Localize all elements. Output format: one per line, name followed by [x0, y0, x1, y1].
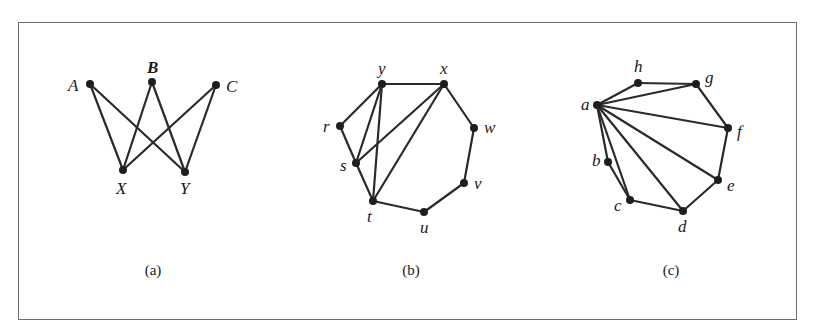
vertex-B — [148, 78, 156, 86]
edge-w-v — [464, 128, 474, 183]
vertex-label-w: w — [484, 118, 496, 137]
vertex-A — [86, 80, 94, 88]
edge-x-w — [444, 84, 474, 128]
edge-u-t — [373, 201, 424, 212]
panel-b-edges — [340, 84, 474, 212]
vertex-f — [724, 124, 732, 132]
vertex-label-g: g — [705, 68, 714, 87]
vertex-label-B: B — [146, 58, 158, 77]
edge-v-u — [424, 183, 464, 212]
vertex-s — [352, 159, 360, 167]
vertex-c — [626, 196, 634, 204]
vertex-y — [378, 80, 386, 88]
edge-a-g — [597, 84, 696, 105]
panel-c-edges — [597, 83, 728, 211]
edge-A-X — [90, 84, 123, 170]
vertex-label-X: X — [115, 179, 127, 198]
panel-a-edges — [90, 82, 216, 172]
panel-a-caption: (a) — [145, 262, 162, 279]
vertex-label-x: x — [439, 59, 448, 78]
edge-t-s — [356, 163, 373, 201]
vertex-w — [470, 124, 478, 132]
vertex-label-u: u — [420, 218, 429, 237]
panel-a-vertices: ABCXY — [67, 58, 238, 198]
panel-c-caption: (c) — [663, 262, 680, 279]
vertex-label-s: s — [340, 156, 347, 175]
vertex-label-e: e — [727, 176, 735, 195]
vertex-label-A: A — [67, 76, 79, 95]
edge-h-g — [638, 83, 696, 84]
edge-a-d — [597, 105, 683, 211]
panel-b-octagon-graph: yxwvutsr (b) — [323, 59, 496, 279]
vertex-label-d: d — [678, 217, 687, 236]
vertex-label-C: C — [226, 77, 238, 96]
panel-a-bipartite-graph: ABCXY (a) — [67, 58, 238, 279]
vertex-x — [440, 80, 448, 88]
graph-figure: ABCXY (a) yxwvutsr (b) ahgfedcb (c) — [0, 0, 832, 330]
vertex-label-Y: Y — [180, 179, 191, 198]
vertex-label-h: h — [634, 57, 643, 76]
edge-e-d — [683, 180, 718, 211]
vertex-label-c: c — [614, 196, 622, 215]
vertex-a — [593, 101, 601, 109]
vertex-C — [212, 81, 220, 89]
vertex-v — [460, 179, 468, 187]
vertex-Y — [181, 168, 189, 176]
vertex-u — [420, 208, 428, 216]
vertex-label-b: b — [592, 151, 601, 170]
vertex-d — [679, 207, 687, 215]
vertex-label-t: t — [367, 207, 373, 226]
vertex-label-a: a — [581, 95, 590, 114]
vertex-label-y: y — [376, 59, 386, 78]
vertex-label-f: f — [737, 122, 744, 141]
vertex-b — [604, 158, 612, 166]
vertex-X — [119, 166, 127, 174]
vertex-h — [634, 79, 642, 87]
vertex-g — [692, 80, 700, 88]
panel-c-fan-graph: ahgfedcb (c) — [581, 57, 744, 279]
panel-b-caption: (b) — [402, 262, 420, 279]
edge-f-e — [718, 128, 728, 180]
vertex-r — [336, 122, 344, 130]
vertex-label-v: v — [474, 174, 482, 193]
vertex-t — [369, 197, 377, 205]
vertex-label-r: r — [323, 117, 330, 136]
edge-a-c — [597, 105, 630, 200]
edge-t-x — [373, 84, 444, 201]
vertex-e — [714, 176, 722, 184]
edge-g-f — [696, 84, 728, 128]
